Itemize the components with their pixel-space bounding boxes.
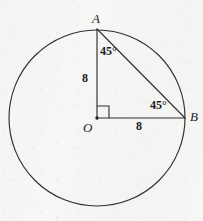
point-label-a: A [92,12,100,25]
geometry-diagram: A B O 8 8 45° 45° [0,0,203,221]
geometry-canvas [0,0,203,221]
angle-label-b: 45° [150,99,167,111]
angle-label-a: 45° [100,45,117,57]
point-label-o: O [83,121,92,134]
center-point-dot [95,116,98,119]
point-label-b: B [190,110,198,123]
length-label-oa: 8 [82,72,88,84]
length-label-ob: 8 [136,120,142,132]
right-angle-marker [97,106,109,118]
